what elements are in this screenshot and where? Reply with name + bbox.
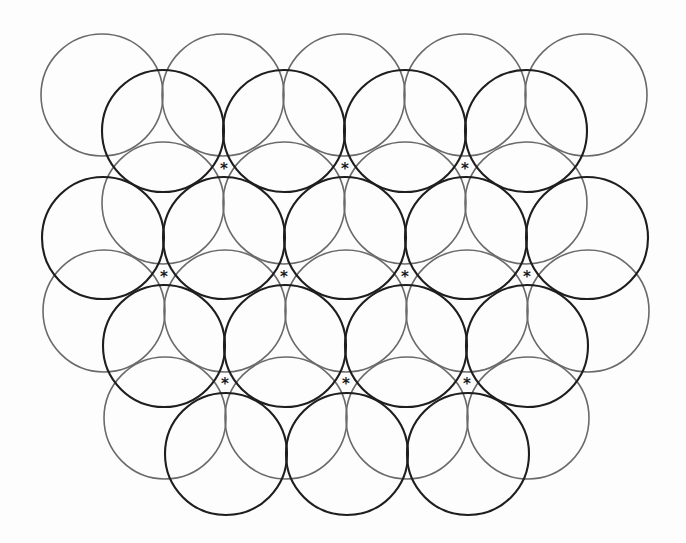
asterisk-icon: * bbox=[221, 375, 229, 393]
asterisk-icon: * bbox=[160, 268, 168, 286]
gray-circle-lattice bbox=[41, 34, 649, 479]
asterisk-icon: * bbox=[341, 160, 349, 178]
dark-circle-lattice bbox=[42, 70, 648, 515]
circle-packing-diagram: ********** bbox=[0, 0, 686, 543]
asterisk-icon: * bbox=[280, 268, 288, 286]
asterisk-icon: * bbox=[401, 268, 409, 286]
asterisk-icon: * bbox=[523, 268, 531, 286]
asterisk-icon: * bbox=[463, 375, 471, 393]
asterisk-icon: * bbox=[461, 160, 469, 178]
asterisk-icon: * bbox=[220, 160, 228, 178]
asterisk-icon: * bbox=[342, 375, 350, 393]
